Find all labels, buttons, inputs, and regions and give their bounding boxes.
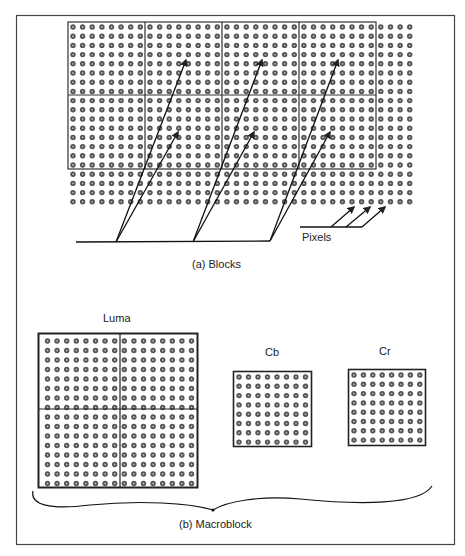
caption-blocks: (a) Blocks bbox=[192, 258, 241, 270]
macroblock-diagram: Pixels (a) Blocks Luma Cb Cr (b) Macrobl… bbox=[0, 0, 465, 556]
block-boundaries bbox=[68, 22, 376, 169]
brace-point bbox=[211, 508, 214, 511]
cb-pixel-grid bbox=[236, 374, 308, 445]
pixels-label: Pixels bbox=[302, 231, 332, 243]
pixels-pointer-arrows bbox=[300, 207, 385, 227]
cr-pixel-grid bbox=[351, 372, 422, 443]
cr-label: Cr bbox=[379, 345, 391, 357]
macroblock-brace bbox=[33, 486, 432, 510]
caption-macroblock: (b) Macroblock bbox=[179, 518, 252, 530]
cr-box bbox=[349, 370, 426, 446]
luma-label: Luma bbox=[103, 312, 131, 324]
cb-label: Cb bbox=[265, 346, 279, 358]
cb-box bbox=[234, 372, 312, 447]
